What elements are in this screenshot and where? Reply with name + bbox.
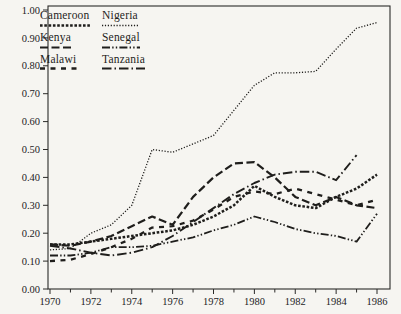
legend-line-sample-nigeria [102,23,138,28]
legend-line-sample-kenya [40,45,72,50]
legend-label-malawi: Malawi [40,53,77,67]
y-tick-label: 0.60 [22,116,40,127]
legend-entry-tanzania: Tanzania [102,53,145,72]
legend-line-sample-tanzania [102,66,145,71]
y-tick-label: 0.30 [22,200,40,211]
x-tick-label: 1974 [121,296,143,307]
x-tick-label: 1970 [40,296,61,307]
legend-sample-holder-senegal [102,45,140,50]
y-tick-label: 0.80 [22,60,40,71]
legend-entry-senegal: Senegal [102,31,140,50]
y-tick-label: 0.20 [22,228,40,239]
x-tick-label: 1984 [326,296,348,307]
legend-entry-cameroon: Cameroon [40,9,90,28]
x-tick-label: 1976 [162,296,183,307]
x-tick-label: 1978 [203,296,224,307]
y-tick-label: 0.70 [22,88,40,99]
legend-entry-nigeria: Nigeria [102,9,138,28]
y-tick-label: 0.10 [22,256,40,267]
line-chart-figure: 0.000.100.200.300.400.500.600.700.800.90… [0,0,401,314]
legend-line-sample-malawi [40,66,77,71]
legend-entry-kenya: Kenya [40,31,72,50]
legend-sample-holder-nigeria [102,23,138,28]
legend-line-sample-cameroon [40,23,90,28]
series-line-kenya [50,162,377,246]
legend-sample-holder-tanzania [102,66,145,71]
legend-line-sample-senegal [102,45,140,50]
legend-entry-malawi: Malawi [40,53,77,72]
series-line-senegal [50,214,377,256]
y-tick-label: 1.00 [22,5,40,16]
y-tick-label: 0.40 [22,172,40,183]
x-tick-label: 1980 [244,296,265,307]
series-line-cameroon [50,175,377,245]
y-tick-label: 0.50 [22,144,40,155]
x-tick-label: 1972 [80,296,101,307]
x-tick-label: 1982 [285,296,306,307]
legend-sample-holder-cameroon [40,23,90,28]
legend-sample-holder-kenya [40,45,72,50]
chart-legend: Cameroon Nigeria Kenya Senegal Malawi Ta… [40,9,145,71]
y-tick-label: 0.00 [22,284,40,295]
y-tick-label: 0.90 [22,33,40,44]
legend-label-senegal: Senegal [102,31,140,45]
legend-label-cameroon: Cameroon [40,9,90,23]
legend-label-nigeria: Nigeria [102,9,138,23]
legend-label-kenya: Kenya [40,31,72,45]
legend-label-tanzania: Tanzania [102,53,145,67]
legend-sample-holder-malawi [40,66,77,71]
x-tick-label: 1986 [367,296,388,307]
